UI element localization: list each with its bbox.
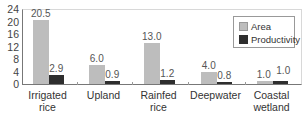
bar-productivity-1 [105,81,121,84]
bar-productivity-4 [273,81,289,84]
value-label: 2.9 [44,63,68,74]
legend-item-area: Area [239,21,271,32]
value-label: 6.0 [85,53,109,64]
x-tick-label-line: Upland [74,89,134,101]
productivity-swatch-icon [239,35,248,44]
legend: Area Productivity [233,16,295,48]
y-tick-label: 20 [7,17,19,27]
y-tick-label: 4 [13,67,19,77]
x-tick-label-line: Coastal [242,89,302,101]
x-tick-label-line: rice [129,101,189,113]
x-tick-label-line: rice [18,101,78,113]
value-label: 20.5 [29,8,53,19]
bar-productivity-0 [49,75,65,84]
x-tick [188,82,189,85]
bar-area-4 [257,81,273,84]
x-tick [245,82,246,85]
x-tick-label-line: Rainfed [129,89,189,101]
value-label: 1.0 [271,65,295,76]
x-tick [132,82,133,85]
legend-label-productivity: Productivity [251,34,300,45]
x-tick-label: Coastalwetland [242,89,302,113]
x-tick-label: Upland [74,89,134,101]
y-tick-label: 12 [7,42,19,52]
x-tick-label-line: wetland [242,101,302,113]
bar-area-0 [33,20,49,84]
y-tick-label: 0 [13,79,19,89]
area-swatch-icon [239,22,248,31]
bar-productivity-2 [160,80,176,84]
x-tick-label: Deepwater [186,89,246,101]
legend-item-productivity: Productivity [239,34,300,45]
x-tick-label: Rainfedrice [129,89,189,113]
value-label: 0.8 [212,70,236,81]
legend-label-area: Area [251,21,271,32]
y-tick-label: 8 [13,54,19,64]
x-tick-label-line: Deepwater [186,89,246,101]
x-tick [77,82,78,85]
value-label: 0.9 [100,69,124,80]
value-label: 1.2 [155,68,179,79]
bar-productivity-3 [217,82,233,85]
x-tick-label: Irrigatedrice [18,89,78,113]
x-tick-label-line: Irrigated [18,89,78,101]
y-tick-label: 24 [7,4,19,14]
value-label: 13.0 [140,31,164,42]
y-tick-label: 16 [7,29,19,39]
